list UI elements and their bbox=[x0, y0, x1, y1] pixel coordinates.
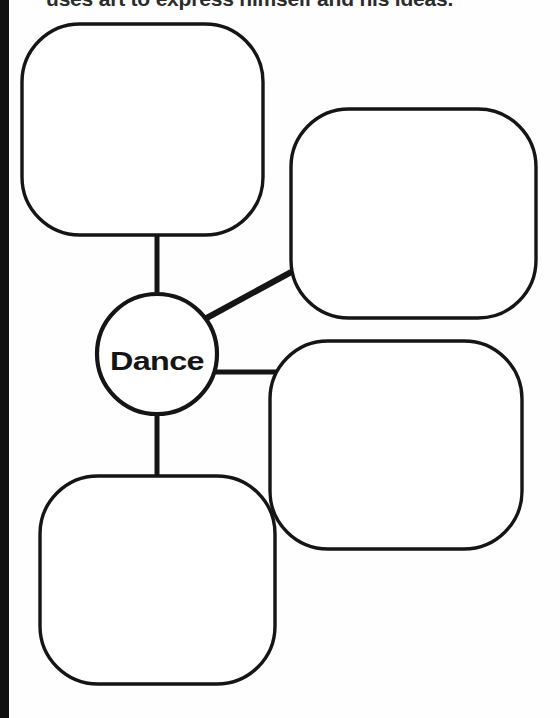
center-node-label: Dance bbox=[110, 346, 204, 376]
answer-area-top-left[interactable] bbox=[22, 24, 263, 235]
connector-center-to-top-right bbox=[203, 270, 295, 320]
answer-area-bottom-left[interactable] bbox=[40, 476, 275, 684]
answer-area-top-right[interactable] bbox=[291, 109, 536, 318]
answer-area-middle-right[interactable] bbox=[270, 341, 522, 549]
center-node: Dance bbox=[97, 294, 217, 414]
worksheet-page: uses art to express himself and his idea… bbox=[0, 0, 560, 718]
